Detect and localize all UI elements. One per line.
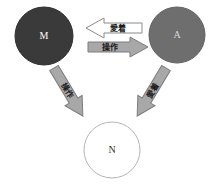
arrow-m-to-n: 操作 (45, 63, 91, 121)
node-m-label: M (40, 30, 49, 41)
arrow-m-to-a: 操作 (88, 37, 148, 57)
diagram-canvas: 愛着 操作 操作 愛着 M A N (0, 0, 220, 185)
node-m[interactable]: M (15, 7, 73, 65)
node-n[interactable]: N (84, 122, 140, 178)
arrow-a-to-n: 愛着 (129, 63, 175, 121)
node-n-label: N (108, 144, 115, 155)
arrow-m-to-a-label: 操作 (102, 42, 118, 52)
node-a-label: A (173, 29, 181, 40)
arrow-a-to-m-label: 愛着 (110, 23, 126, 33)
arrow-m-to-a-shape (88, 37, 148, 57)
relationship-diagram: 愛着 操作 操作 愛着 M A N (0, 0, 220, 185)
arrow-a-to-m: 愛着 (86, 18, 142, 38)
node-a[interactable]: A (149, 7, 205, 63)
